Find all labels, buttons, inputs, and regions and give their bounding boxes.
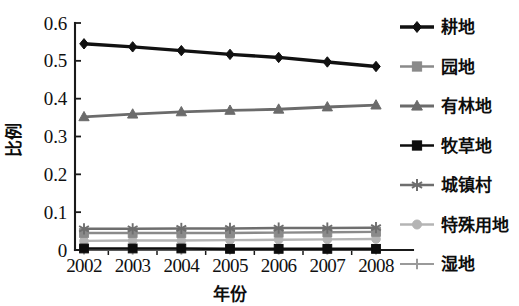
- y-tick-label: 0.5: [44, 50, 67, 71]
- y-tick-label: 0.2: [44, 164, 67, 185]
- marker-square: [412, 141, 421, 150]
- x-tick-label: 2007: [310, 255, 346, 276]
- y-tick-label: 0.4: [44, 88, 68, 109]
- x-tick-labels: 2002200320042005200620072008: [66, 255, 394, 276]
- x-tick-label: 2003: [115, 255, 151, 276]
- marker-square: [412, 62, 421, 71]
- legend-label: 城镇村: [441, 175, 492, 195]
- legend-label: 特殊用地: [441, 215, 509, 235]
- legend-label: 牧草地: [441, 136, 492, 156]
- y-tick-label: 0.6: [44, 13, 67, 34]
- x-tick-label: 2004: [164, 255, 201, 276]
- marker-square: [128, 244, 137, 253]
- y-axis-title: 比例: [4, 123, 24, 157]
- marker-circle: [412, 220, 421, 229]
- marker-square: [274, 244, 283, 253]
- marker-square: [323, 244, 332, 253]
- legend-label: 耕地: [441, 17, 475, 37]
- y-tick-label: 0.3: [44, 126, 67, 147]
- line-chart: 00.10.20.30.40.50.6 20022003200420052006…: [0, 0, 519, 306]
- marker-square: [372, 244, 381, 253]
- marker-square: [80, 244, 89, 253]
- x-tick-label: 2008: [358, 255, 394, 276]
- chart-container: 00.10.20.30.40.50.6 20022003200420052006…: [0, 0, 519, 306]
- y-tick-label: 0.1: [44, 202, 67, 223]
- x-axis-title: 年份: [213, 284, 248, 304]
- x-tick-label: 2006: [261, 255, 297, 276]
- x-tick-label: 2002: [66, 255, 102, 276]
- x-tick-label: 2005: [212, 255, 248, 276]
- legend-label: 湿地: [441, 254, 475, 274]
- marker-square: [177, 244, 186, 253]
- legend-label: 有林地: [441, 96, 492, 116]
- marker-square: [226, 244, 235, 253]
- legend-label: 园地: [441, 57, 475, 77]
